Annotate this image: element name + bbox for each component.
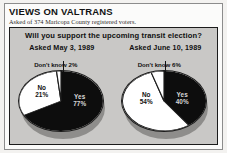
pie-label-yes-may-value: 77% (73, 100, 86, 107)
pie-column-june: Asked June 10, 1989 Don't know 6% (114, 42, 218, 144)
survey-question: Will you support the upcoming transit el… (10, 31, 217, 40)
pie-chart-may: No 21% Yes 77% (16, 65, 108, 139)
pie-label-no-june: No 54% (130, 91, 162, 105)
pie-title-june: Asked June 10, 1989 (114, 43, 218, 52)
pie-label-yes-june-name: Yes (177, 91, 188, 98)
pie-label-no-may-name: No (37, 84, 46, 91)
pie-title-may: Asked May 3, 1989 (10, 43, 114, 52)
pie-label-no-june-value: 54% (140, 98, 153, 105)
pie-column-may: Asked May 3, 1989 Don't know 2% (10, 42, 114, 144)
header-block: VIEWS ON VALTRANS Asked of 374 Maricopa … (9, 7, 221, 26)
infographic: VIEWS ON VALTRANS Asked of 374 Maricopa … (0, 0, 227, 153)
chart-panel: Will you support the upcoming transit el… (9, 27, 218, 145)
pie-label-yes-may: Yes 77% (64, 93, 96, 107)
pie-label-no-may-value: 21% (35, 91, 48, 98)
pie-label-no-june-name: No (142, 91, 151, 98)
pie-columns: Asked May 3, 1989 Don't know 2% (10, 42, 217, 144)
pie-label-yes-june-value: 40% (176, 98, 189, 105)
pie-label-yes-may-name: Yes (74, 93, 85, 100)
page-title: VIEWS ON VALTRANS (9, 7, 221, 17)
pie-label-yes-june: Yes 40% (166, 91, 198, 105)
header-subtitle: Asked of 374 Maricopa County registered … (9, 18, 221, 26)
pie-chart-june: No 54% Yes 40% (119, 65, 211, 139)
pie-label-no-may: No 21% (26, 84, 58, 98)
